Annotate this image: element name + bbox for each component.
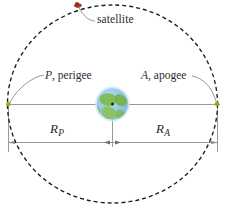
- radius-apogee-symbol: R: [156, 121, 164, 136]
- satellite-dot-icon: [75, 2, 79, 6]
- satellite-label: satellite: [97, 14, 134, 26]
- dimension-arrow-right: [115, 141, 121, 145]
- earth-center-dot: [111, 103, 114, 106]
- dimension-arrow-far-left: [9, 141, 16, 144]
- orbit-diagram-canvas: [0, 0, 228, 223]
- perigee-symbol: P: [45, 69, 52, 81]
- dimension-arrow-far-right: [211, 141, 218, 144]
- apogee-node-marker: [215, 102, 220, 107]
- satellite-label-text: satellite: [97, 13, 134, 25]
- dimension-arrow-left: [104, 141, 110, 145]
- apogee-label: A, apogee: [141, 70, 186, 82]
- radius-perigee-label: RP: [50, 122, 64, 138]
- perigee-label: P, perigee: [45, 70, 92, 82]
- orbit-diagram: satellite P, perigee A, apogee RP RA: [0, 0, 228, 223]
- apogee-leader-line: [192, 76, 216, 101]
- radius-perigee-symbol: R: [50, 121, 58, 136]
- radius-apogee-label: RA: [156, 122, 170, 138]
- perigee-leader-line: [10, 75, 44, 102]
- radius-apogee-subscript: A: [164, 128, 170, 138]
- satellite-leader-line: [79, 7, 96, 22]
- perigee-node-marker: [6, 102, 11, 107]
- apogee-word: apogee: [154, 69, 187, 81]
- radius-perigee-subscript: P: [58, 128, 64, 138]
- apogee-symbol: A: [141, 69, 148, 81]
- perigee-word: perigee: [58, 69, 92, 81]
